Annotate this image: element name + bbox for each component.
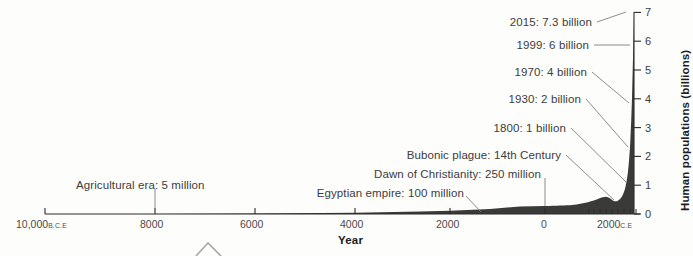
annotation-agricultural-era: Agricultural era: 5 million <box>76 180 205 192</box>
xtick-era: B.C.E <box>48 222 67 229</box>
ytick-label-4: 4 <box>645 94 651 105</box>
population-growth-chart: 2015: 7.3 billion 1999: 6 billion 1970: … <box>0 0 693 256</box>
xtick-label-4000: 4000 <box>340 219 363 230</box>
xtick-label-0: 0 <box>541 219 547 230</box>
annotation-1999: 1999: 6 billion <box>517 40 589 52</box>
ytick-label-7: 7 <box>645 7 651 18</box>
xtick-label-10000-bce: 10,000B.C.E <box>16 219 67 230</box>
leader-line-1930 <box>586 99 628 147</box>
leader-line-1970 <box>592 72 629 103</box>
annotation-christianity: Dawn of Christianity: 250 million <box>374 169 541 181</box>
xtick-value: 2000 <box>597 218 620 230</box>
page-caret-icon <box>196 243 221 256</box>
xtick-label-2000-bce: 2000 <box>436 219 459 230</box>
leader-line-1800 <box>571 128 626 182</box>
x-axis-title: Year <box>338 234 363 246</box>
annotation-1930: 1930: 2 billion <box>509 94 581 106</box>
annotation-bubonic-plague: Bubonic plague: 14th Century <box>407 150 561 162</box>
leader-line-egyptian-empire <box>466 196 481 212</box>
xtick-label-2000-ce: 2000C.E <box>597 219 632 230</box>
ytick-label-0: 0 <box>645 209 651 220</box>
ytick-label-5: 5 <box>645 65 651 76</box>
xtick-label-8000: 8000 <box>140 219 163 230</box>
xtick-era: C.E <box>620 222 632 229</box>
annotation-1800: 1800: 1 billion <box>494 123 566 135</box>
ytick-label-2: 2 <box>645 151 651 162</box>
xtick-label-6000: 6000 <box>240 219 263 230</box>
ytick-label-3: 3 <box>645 123 651 134</box>
y-axis-title: Human populations (billions) <box>679 50 691 211</box>
leader-line-bubonic-plague <box>566 155 614 200</box>
annotation-egyptian-empire: Egyptian empire: 100 million <box>317 188 464 200</box>
annotation-2015: 2015: 7.3 billion <box>510 17 592 29</box>
ytick-label-6: 6 <box>645 36 651 47</box>
ytick-label-1: 1 <box>645 180 651 191</box>
xtick-value: 10,000 <box>16 218 48 230</box>
leader-line-2015 <box>597 12 626 22</box>
annotation-1970: 1970: 4 billion <box>515 67 587 79</box>
y-axis-ticks <box>634 12 641 214</box>
